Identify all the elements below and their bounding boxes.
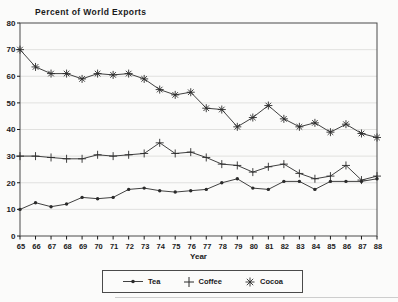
tea-marker — [49, 205, 52, 208]
coffee-marker — [47, 153, 55, 161]
coffee-marker — [311, 175, 319, 183]
y-tick-label: 40 — [7, 125, 16, 134]
x-tick-label: 87 — [358, 242, 366, 251]
tea-marker — [189, 189, 192, 192]
x-tick-label: 69 — [79, 242, 87, 251]
y-tick-label: 60 — [7, 72, 16, 81]
coffee-marker — [125, 151, 133, 159]
tea-marker — [158, 189, 161, 192]
cocoa-marker — [16, 46, 24, 54]
x-tick-label: 79 — [234, 242, 242, 251]
x-tick-label: 74 — [157, 242, 166, 251]
tea-marker — [313, 188, 316, 191]
coffee-marker — [202, 153, 210, 161]
coffee-marker — [218, 160, 226, 168]
x-tick-label: 76 — [188, 242, 196, 251]
cocoa-marker — [342, 120, 350, 128]
coffee-plus-icon — [183, 276, 195, 288]
x-tick-label: 67 — [48, 242, 56, 251]
tea-marker — [329, 180, 332, 183]
x-tick-label: 66 — [32, 242, 40, 251]
legend-label-tea: Tea — [148, 277, 160, 286]
x-tick-label: 77 — [203, 242, 211, 251]
tea-marker — [111, 196, 114, 199]
tea-marker — [205, 188, 208, 191]
tea-marker — [174, 190, 177, 193]
y-tick-label: 30 — [7, 152, 16, 161]
x-tick-label: 71 — [110, 242, 118, 251]
cocoa-marker — [32, 63, 40, 71]
tea-marker — [251, 186, 254, 189]
y-tick-label: 70 — [7, 45, 16, 54]
cocoa-series-line — [20, 50, 377, 138]
coffee-marker — [109, 152, 117, 160]
cocoa-marker — [326, 128, 334, 136]
x-tick-label: 70 — [94, 242, 102, 251]
tea-marker — [282, 180, 285, 183]
x-tick-label: 80 — [250, 242, 258, 251]
tea-line-dot-icon — [122, 277, 144, 286]
x-tick-label: 85 — [327, 242, 335, 251]
tea-marker — [344, 180, 347, 183]
cocoa-marker — [218, 106, 226, 114]
tea-marker — [18, 208, 21, 211]
scan-artifact-line — [115, 297, 398, 298]
x-tick-label: 82 — [281, 242, 289, 251]
y-tick-label: 80 — [7, 19, 16, 28]
x-tick-label: 72 — [125, 242, 133, 251]
legend-item-coffee: Coffee — [183, 276, 222, 288]
tea-marker — [96, 197, 99, 200]
coffee-marker — [264, 163, 272, 171]
y-tick-label: 10 — [7, 205, 16, 214]
y-tick-label: 0 — [11, 232, 16, 241]
legend-item-tea: Tea — [122, 277, 160, 286]
tea-marker — [236, 177, 239, 180]
x-tick-label: 88 — [374, 242, 382, 251]
x-tick-label: 78 — [219, 242, 227, 251]
tea-marker — [127, 188, 130, 191]
tea-marker — [65, 202, 68, 205]
tea-marker — [142, 186, 145, 189]
y-tick-label: 20 — [7, 179, 16, 188]
cocoa-marker — [171, 91, 179, 99]
legend-box: Tea Coffee Cocoa — [102, 270, 303, 293]
coffee-marker — [233, 161, 241, 169]
cocoa-marker — [249, 114, 257, 122]
tea-marker — [298, 180, 301, 183]
x-tick-label: 83 — [296, 242, 304, 251]
x-tick-label: 81 — [265, 242, 273, 251]
x-tick-label: 75 — [172, 242, 180, 251]
cocoa-marker — [233, 123, 241, 131]
cocoa-marker — [156, 86, 164, 94]
tea-marker — [34, 201, 37, 204]
x-tick-label: 68 — [63, 242, 71, 251]
x-tick-label: 65 — [17, 242, 25, 251]
x-tick-label: 84 — [312, 242, 321, 251]
coffee-marker — [156, 139, 164, 147]
cocoa-marker — [373, 133, 381, 141]
y-tick-label: 50 — [7, 99, 16, 108]
coffee-marker — [16, 152, 24, 160]
coffee-series-line — [20, 143, 377, 180]
x-axis-title: Year — [20, 252, 377, 261]
cocoa-marker — [295, 123, 303, 131]
coffee-marker — [326, 172, 334, 180]
coffee-marker — [249, 168, 257, 176]
cocoa-marker — [109, 71, 117, 79]
legend-label-cocoa: Cocoa — [260, 277, 283, 286]
tea-marker — [267, 188, 270, 191]
cocoa-marker — [311, 119, 319, 127]
cocoa-marker — [357, 129, 365, 137]
chart-area: Percent of World Exports 010203040506070… — [0, 0, 398, 302]
cocoa-asterisk-icon — [244, 276, 256, 288]
coffee-marker — [94, 151, 102, 159]
tea-series-line — [20, 179, 377, 210]
coffee-marker — [280, 160, 288, 168]
coffee-marker — [32, 152, 40, 160]
tea-marker — [80, 196, 83, 199]
x-tick-label: 73 — [141, 242, 149, 251]
coffee-marker — [187, 148, 195, 156]
coffee-marker — [295, 169, 303, 177]
legend-item-cocoa: Cocoa — [244, 276, 283, 288]
tea-marker — [220, 181, 223, 184]
